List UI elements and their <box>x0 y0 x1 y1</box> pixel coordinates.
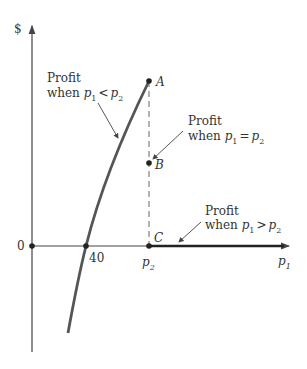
origin-point <box>29 243 35 249</box>
point-40 <box>83 243 89 249</box>
x-axis-label: p1 <box>278 254 291 271</box>
origin-label: 0 <box>17 239 25 253</box>
svg-text:Profit: Profit <box>205 204 239 218</box>
annotation-p1-greater: Profit when p1>p2 <box>179 204 281 242</box>
profit-diagram: $ p1 0 40 A B C p2 Profit when p1<p2 Pro… <box>0 0 307 369</box>
point-b-label: B <box>154 158 164 172</box>
point-a-label: A <box>155 75 165 89</box>
annotation-p1-less: Profit when p1<p2 <box>47 71 123 138</box>
tick-label-40: 40 <box>89 251 104 265</box>
svg-text:Profit: Profit <box>188 114 222 128</box>
tick-label-p2: p2 <box>142 255 155 272</box>
svg-text:Profit: Profit <box>47 71 81 85</box>
annotation-p1-equal: Profit when p1=p2 <box>153 114 264 159</box>
svg-text:when p1=p2: when p1=p2 <box>188 129 264 146</box>
point-a <box>146 78 152 84</box>
point-c-label: C <box>154 231 163 245</box>
profit-curve-p1-less <box>68 81 149 333</box>
annotation-arrow-p1-equal <box>153 131 183 159</box>
annotation-arrow-p1-greater <box>179 222 201 242</box>
point-c <box>146 243 152 249</box>
svg-text:when p1>p2: when p1>p2 <box>205 218 281 235</box>
point-b <box>146 160 152 166</box>
annotation-arrow-p1-less <box>98 103 118 138</box>
svg-text:when p1<p2: when p1<p2 <box>47 86 123 103</box>
y-axis-label: $ <box>14 22 22 36</box>
